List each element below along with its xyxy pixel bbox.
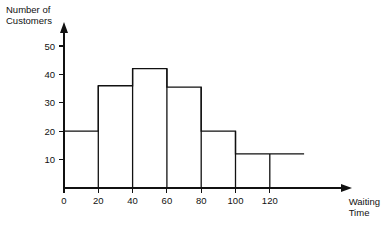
axes-group	[60, 22, 352, 192]
histogram-outline	[64, 69, 304, 188]
y-tick-label: 30	[44, 97, 55, 108]
x-tick-label: 80	[196, 195, 207, 206]
y-axis-arrow-icon	[60, 22, 68, 33]
x-tick-label: 40	[127, 195, 138, 206]
x-tick-label: 0	[61, 195, 66, 206]
y-tick-label: 10	[44, 154, 55, 165]
y-tick-label: 50	[44, 41, 55, 52]
y-tick-label: 20	[44, 126, 55, 137]
x-tick-label: 20	[93, 195, 104, 206]
x-axis-arrow-icon	[341, 184, 352, 192]
histogram-bars	[64, 69, 304, 188]
histogram-plot-area: 1020304050 020406080100120	[0, 0, 384, 229]
x-tick-label: 60	[162, 195, 173, 206]
y-tick-group: 1020304050	[44, 41, 64, 166]
histogram-chart: Number of Customers Waiting Time 1020304…	[0, 0, 384, 229]
x-tick-label: 100	[228, 195, 244, 206]
x-tick-label: 120	[262, 195, 278, 206]
y-tick-label: 40	[44, 69, 55, 80]
x-tick-group: 020406080100120	[61, 188, 277, 206]
